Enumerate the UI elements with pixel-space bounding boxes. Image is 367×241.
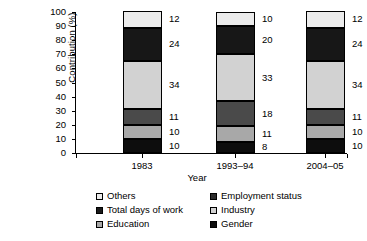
y-axis-tick-label: 40 [44, 92, 66, 102]
bar-segment-value-label: 10 [169, 141, 180, 151]
bar-segment-value-label: 24 [352, 40, 363, 50]
legend-item-label: Education [107, 219, 149, 229]
y-axis-tick-label: 30 [44, 106, 66, 116]
bar-segment[interactable] [216, 26, 255, 54]
bar-segment-value-label: 24 [169, 40, 180, 50]
bar-segment-value-label: 34 [352, 81, 363, 91]
y-axis-tick-labels: 0102030405060708090100 [47, 12, 69, 153]
legend-swatch-icon [96, 221, 103, 228]
bar-segment[interactable] [306, 61, 345, 109]
legend-item[interactable]: Gender [210, 217, 350, 231]
legend-column-left: OthersTotal days of workEducation [96, 189, 211, 231]
legend-item[interactable]: Education [96, 217, 211, 231]
y-axis-tick-label: 70 [44, 50, 66, 60]
y-axis-tick-label: 80 [44, 35, 66, 45]
plot-area: Contribution (%) 0102030405060708090100 … [47, 12, 347, 160]
legend-item-label: Employment status [221, 191, 302, 201]
bar-segment-value-label: 20 [262, 35, 273, 45]
bar-segment-value-label: 18 [262, 109, 273, 119]
bar-segment-value-label: 10 [169, 127, 180, 137]
bar-segment[interactable] [216, 142, 255, 153]
legend-item[interactable]: Industry [210, 203, 350, 217]
stacked-bar[interactable]: 101011342412 [123, 12, 162, 153]
bar-segment[interactable] [306, 28, 345, 62]
bar-segment[interactable] [306, 11, 345, 28]
legend-item-label: Others [107, 191, 136, 201]
legend-swatch-icon [96, 207, 103, 214]
bar-segment[interactable] [306, 125, 345, 139]
x-axis-line [75, 153, 347, 154]
bar-segment[interactable] [123, 11, 162, 28]
bar-segment-value-label: 10 [352, 141, 363, 151]
legend-swatch-icon [210, 221, 217, 228]
y-axis-tick-label: 60 [44, 64, 66, 74]
x-axis-tick-mark [142, 154, 143, 158]
bar-segment-value-label: 12 [169, 14, 180, 24]
x-axis-title: Year [47, 172, 347, 183]
bar-segment[interactable] [123, 125, 162, 139]
stacked-bar-chart-figure: Contribution (%) 0102030405060708090100 … [0, 0, 367, 241]
bar-segment[interactable] [123, 28, 162, 62]
bar-segment-value-label: 12 [352, 14, 363, 24]
bar-segment[interactable] [123, 109, 162, 125]
bar-segment[interactable] [123, 139, 162, 153]
x-axis-tick-label: 2004–05 [285, 160, 365, 171]
x-axis-tick-mark [347, 154, 348, 158]
stacked-bar[interactable]: 81118332010 [216, 12, 255, 153]
x-axis-tick-label: 1993–94 [195, 160, 275, 171]
bar-segment[interactable] [216, 126, 255, 142]
bar-segment-value-label: 33 [262, 73, 273, 83]
y-axis-tick-label: 20 [44, 120, 66, 130]
legend-item-label: Total days of work [107, 205, 183, 215]
legend-item[interactable]: Total days of work [96, 203, 211, 217]
x-axis-tick-mark [235, 154, 236, 158]
legend-item[interactable]: Others [96, 189, 211, 203]
bar-segment[interactable] [306, 109, 345, 125]
bar-segment[interactable] [216, 12, 255, 26]
y-axis-tick-label: 100 [44, 7, 66, 17]
bar-segment[interactable] [216, 101, 255, 126]
chart-legend: OthersTotal days of workEducation Employ… [96, 189, 346, 235]
bar-segment-value-label: 11 [262, 129, 272, 139]
x-axis-tick-label: 1983 [102, 160, 182, 171]
y-axis-tick-label: 90 [44, 21, 66, 31]
y-axis-tick-label: 50 [44, 78, 66, 88]
bar-segment-value-label: 10 [262, 14, 273, 24]
legend-item-label: Gender [221, 219, 253, 229]
bar-segment-value-label: 8 [262, 143, 267, 153]
bar-segment-value-label: 11 [169, 112, 179, 122]
legend-swatch-icon [96, 193, 103, 200]
x-axis-tick-mark [325, 154, 326, 158]
legend-column-right: Employment statusIndustryGender [210, 189, 350, 231]
bar-segment[interactable] [216, 54, 255, 101]
bar-segment-value-label: 11 [352, 112, 362, 122]
bar-segment[interactable] [123, 61, 162, 109]
bar-segment-value-label: 34 [169, 81, 180, 91]
legend-swatch-icon [210, 193, 217, 200]
x-axis-tick-mark [76, 154, 77, 158]
legend-item[interactable]: Employment status [210, 189, 350, 203]
y-axis-tick-label: 0 [44, 148, 66, 158]
legend-item-label: Industry [221, 205, 255, 215]
legend-swatch-icon [210, 207, 217, 214]
stacked-bar[interactable]: 101011342412 [306, 12, 345, 153]
bar-segment-value-label: 10 [352, 127, 363, 137]
bar-series-container: 1010113424121983811183320101993–94101011… [76, 12, 347, 153]
bar-segment[interactable] [306, 139, 345, 153]
y-axis-tick-label: 10 [44, 134, 66, 144]
